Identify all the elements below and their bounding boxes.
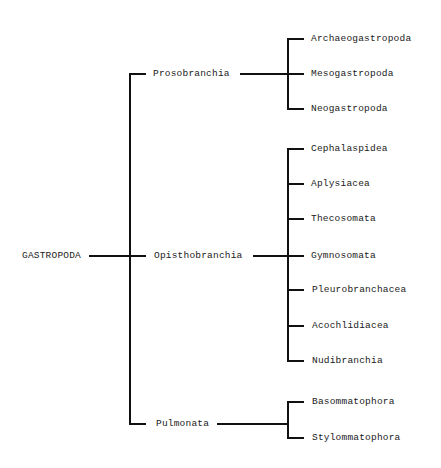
stub-aplysiacea xyxy=(287,183,304,185)
node-cephalaspidea: Cephalaspidea xyxy=(311,143,388,155)
node-archaeogastropoda: Archaeogastropoda xyxy=(311,33,411,45)
node-basommatophora: Basommatophora xyxy=(312,396,395,408)
stub-mesogastropoda xyxy=(287,73,304,75)
stub-opisthobranchia xyxy=(129,255,146,257)
connector-pulmonata xyxy=(217,423,289,425)
stub-gymnosomata xyxy=(287,255,304,257)
stub-archaeogastropoda xyxy=(287,38,304,40)
node-gymnosomata: Gymnosomata xyxy=(311,250,376,262)
stub-basommatophora xyxy=(287,401,304,403)
node-acochlidiacea: Acochlidiacea xyxy=(312,320,389,332)
stub-cephalaspidea xyxy=(287,148,304,150)
connector-prosobranchia xyxy=(240,73,289,75)
connector-root xyxy=(89,255,131,257)
stub-stylommatophora xyxy=(287,437,304,439)
node-pleurobranchacea: Pleurobranchacea xyxy=(312,284,406,296)
bracket-level1 xyxy=(129,73,131,425)
stub-pleurobranchacea xyxy=(287,289,304,291)
stub-nudibranchia xyxy=(287,360,304,362)
node-thecosomata: Thecosomata xyxy=(311,213,376,225)
stub-neogastropoda xyxy=(287,108,304,110)
connector-opisthobranchia xyxy=(253,255,289,257)
node-neogastropoda: Neogastropoda xyxy=(311,103,388,115)
node-nudibranchia: Nudibranchia xyxy=(312,355,383,367)
node-prosobranchia: Prosobranchia xyxy=(153,68,230,80)
node-mesogastropoda: Mesogastropoda xyxy=(311,68,394,80)
node-pulmonata: Pulmonata xyxy=(156,418,209,430)
stub-pulmonata xyxy=(129,423,146,425)
node-gastropoda: GASTROPODA xyxy=(22,250,81,262)
stub-acochlidiacea xyxy=(287,325,304,327)
node-opisthobranchia: Opisthobranchia xyxy=(154,250,243,262)
bracket-pulmonata xyxy=(287,401,289,439)
node-stylommatophora: Stylommatophora xyxy=(312,432,401,444)
node-aplysiacea: Aplysiacea xyxy=(311,178,370,190)
stub-thecosomata xyxy=(287,218,304,220)
stub-prosobranchia xyxy=(129,73,146,75)
taxonomy-tree: GASTROPODA Prosobranchia Archaeogastropo… xyxy=(0,0,441,468)
